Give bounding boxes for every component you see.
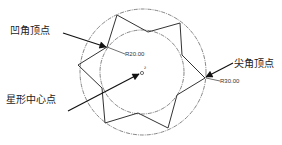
dim-outer-radius: R30.00 xyxy=(220,78,239,84)
arrow-concave-vertex xyxy=(63,33,106,47)
arrow-convex-vertex xyxy=(206,63,233,77)
center-point xyxy=(140,71,143,74)
leader-r30 xyxy=(206,78,220,81)
leader-r20 xyxy=(107,47,125,54)
axis-mark: z xyxy=(144,65,146,70)
dim-inner-radius: R20.00 xyxy=(125,51,144,57)
inner-circle xyxy=(100,30,184,114)
label-star-center: 星形中心点 xyxy=(6,91,56,106)
label-concave-vertex: 凹角顶点 xyxy=(10,22,50,37)
label-convex-vertex: 尖角顶点 xyxy=(234,55,274,70)
